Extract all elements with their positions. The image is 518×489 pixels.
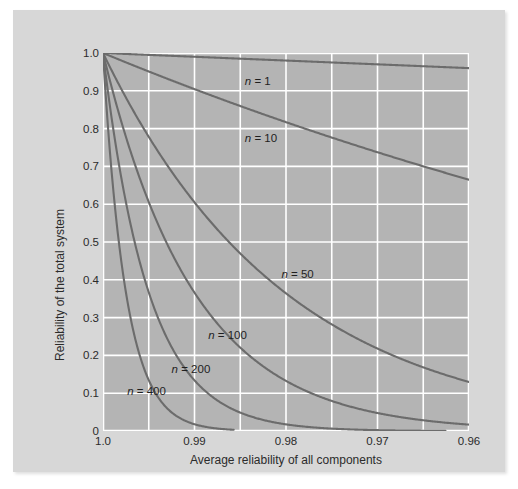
y-tick-label: 0.6 <box>65 198 99 210</box>
curve-label-variable: n <box>172 363 178 375</box>
x-tick-label: 1.0 <box>95 434 111 448</box>
curve-label-n-10: n = 10 <box>245 132 277 144</box>
x-tick-label: 0.98 <box>275 434 297 448</box>
curve-label-variable: n <box>245 132 251 144</box>
y-tick-label: 0.3 <box>65 312 99 324</box>
y-tick-label: 0.7 <box>65 160 99 172</box>
figure-panel: 00.10.20.30.40.50.60.70.80.91.0 Reliabil… <box>13 10 505 472</box>
figure-root: 00.10.20.30.40.50.60.70.80.91.0 Reliabil… <box>0 0 518 489</box>
curve-label-variable: n <box>208 329 214 341</box>
curve-label-n-200: n = 200 <box>172 363 211 375</box>
y-tick-label: 0.5 <box>65 236 99 248</box>
y-tick-label: 1.0 <box>65 47 99 59</box>
y-tick-label: 0.8 <box>65 123 99 135</box>
curve-label-n-50: n = 50 <box>281 268 313 280</box>
x-axis-title: Average reliability of all components <box>103 453 469 467</box>
y-tick-label: 0.1 <box>65 387 99 399</box>
x-tick-label: 0.96 <box>458 434 480 448</box>
y-tick-label: 0.4 <box>65 274 99 286</box>
y-axis-title-container: Reliability of the total system <box>53 53 69 431</box>
y-tick-label: 0.2 <box>65 349 99 361</box>
x-tick-label: 0.97 <box>366 434 388 448</box>
curve-label-variable: n <box>245 75 251 87</box>
x-axis-tick-labels: 1.00.990.980.970.96 <box>103 434 469 452</box>
curve-label-n-100: n = 100 <box>208 329 247 341</box>
curve-label-variable: n <box>127 385 133 397</box>
chart-canvas <box>103 53 469 431</box>
x-tick-label: 0.99 <box>183 434 205 448</box>
curve-label-n-400: n = 400 <box>127 385 166 397</box>
y-tick-label: 0.9 <box>65 85 99 97</box>
plot-area: n = 1n = 10n = 50n = 100n = 200n = 400 <box>103 53 469 431</box>
y-tick-label: 0 <box>65 425 99 437</box>
curve-label-variable: n <box>281 268 287 280</box>
curve-label-n-1: n = 1 <box>245 75 271 87</box>
y-axis-title: Reliability of the total system <box>53 96 69 474</box>
